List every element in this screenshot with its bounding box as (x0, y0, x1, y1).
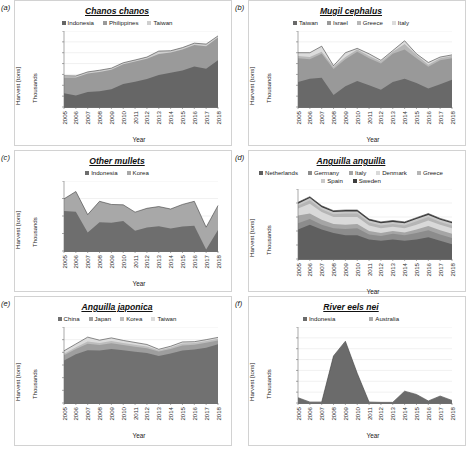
chart-legend: IndonesiaPhilippinesTaiwan (0, 19, 234, 26)
y-axis-title: Harvest [tons] (14, 363, 21, 401)
chart-panel-a: (a)Chanos chanosIndonesiaPhilippinesTaiw… (0, 0, 234, 150)
x-tick-label: 2012 (377, 262, 384, 276)
x-tick-label: 2013 (389, 406, 396, 420)
legend-swatch-icon (327, 21, 331, 25)
x-tick-label: 2017 (203, 110, 210, 124)
legend-item[interactable]: Italy (392, 19, 409, 26)
x-tick-label: 2011 (366, 406, 373, 420)
legend-label: Sweden (359, 177, 381, 184)
x-tick-label: 2015 (413, 262, 420, 276)
legend-label: Philippines (109, 19, 138, 26)
legend-item[interactable]: Taiwan (147, 19, 172, 26)
legend-item[interactable]: Germany (308, 169, 339, 176)
legend-item[interactable]: Philippines (103, 19, 138, 26)
x-tick-label: 2017 (437, 406, 444, 420)
x-tick-label: 2011 (366, 110, 373, 124)
x-tick-label: 2008 (330, 262, 337, 276)
legend-swatch-icon (103, 21, 107, 25)
legend-label: Netherlands (265, 169, 298, 176)
legend-item[interactable]: Australia (369, 315, 399, 322)
area-series-australia (298, 341, 452, 403)
x-axis-line (64, 107, 218, 108)
legend-label: Italy (398, 19, 409, 26)
legend-label: Greece (423, 169, 443, 176)
legend-label: Denmark (382, 169, 407, 176)
x-axis-line (298, 107, 452, 108)
y-axis-title: Harvest [tons] (14, 211, 21, 249)
legend-label: Australia (375, 315, 399, 322)
legend-item[interactable]: Japan (89, 315, 112, 322)
chart-legend: IndonesiaKorea (0, 169, 234, 176)
x-tick-label: 2013 (155, 254, 162, 268)
x-tick-label: 2015 (413, 110, 420, 124)
y-axis-scale-label: Thousands (266, 73, 272, 103)
x-tick-label: 2011 (132, 254, 139, 268)
legend-item[interactable]: Taiwan (151, 315, 176, 322)
chart-legend: IndonesiaAustralia (234, 315, 468, 322)
plot-area: 0123456720052006200720082009201020112012… (296, 31, 460, 137)
series-total-outline (298, 341, 452, 402)
legend-item[interactable]: Israel (327, 19, 348, 26)
x-tick-label: 2014 (401, 406, 408, 420)
x-tick-label: 2016 (191, 254, 198, 268)
panel-title: River eels nei (234, 302, 468, 312)
x-tick-label: 2008 (330, 110, 337, 124)
legend-item[interactable]: Indonesia (303, 315, 335, 322)
panel-title: Other mullets (0, 156, 234, 166)
x-tick-label: 2014 (401, 262, 408, 276)
x-tick-label: 2010 (120, 254, 127, 268)
x-tick-label: 2016 (191, 406, 198, 420)
x-tick-label: 2014 (401, 110, 408, 124)
legend-item[interactable]: Korea (120, 315, 142, 322)
legend-label: Italy (355, 169, 366, 176)
legend-swatch-icon (127, 171, 131, 175)
legend-item[interactable]: Indonesia (62, 19, 94, 26)
y-axis-scale-label: Thousands (32, 217, 38, 247)
legend-swatch-icon (357, 21, 361, 25)
x-tick-label: 2016 (425, 110, 432, 124)
x-tick-label: 2018 (449, 406, 456, 420)
legend-item[interactable]: Spain (321, 177, 343, 184)
chart-legend: NetherlandsGermanyItalyDenmarkGreeceSpai… (234, 169, 468, 184)
x-tick-label: 2005 (62, 110, 68, 124)
x-axis-title: Year (296, 288, 450, 295)
x-axis-line (64, 251, 218, 252)
x-tick-label: 2011 (132, 110, 139, 124)
legend-item[interactable]: China (58, 315, 80, 322)
legend-item[interactable]: Greece (357, 19, 383, 26)
legend-item[interactable]: Greece (417, 169, 443, 176)
legend-item[interactable]: Indonesia (85, 169, 117, 176)
legend-item[interactable]: Denmark (376, 169, 407, 176)
x-tick-label: 2005 (62, 406, 68, 420)
legend-swatch-icon (353, 179, 357, 183)
legend-item[interactable]: Netherlands (259, 169, 298, 176)
plot-area: 02004006008001,0001,2001,400200520062007… (62, 31, 226, 137)
x-tick-label: 2009 (108, 110, 115, 124)
chart-legend: TaiwanIsraelGreeceItaly (234, 19, 468, 26)
x-tick-label: 2016 (425, 262, 432, 276)
legend-label: Korea (133, 169, 149, 176)
legend-item[interactable]: Taiwan (293, 19, 318, 26)
chart-panel-d: (d)Anguilla anguillaNetherlandsGermanyIt… (234, 150, 468, 296)
y-axis-title: Harvest [tons] (248, 219, 255, 257)
legend-swatch-icon (392, 21, 396, 25)
legend-item[interactable]: Korea (127, 169, 149, 176)
legend-item[interactable]: Italy (349, 169, 366, 176)
legend-swatch-icon (89, 317, 93, 321)
x-axis-line (64, 403, 218, 404)
legend-label: Taiwan (153, 19, 172, 26)
x-tick-label: 2006 (72, 406, 79, 420)
legend-label: China (64, 315, 80, 322)
legend-item[interactable]: Sweden (353, 177, 381, 184)
x-tick-label: 2011 (132, 406, 139, 420)
x-tick-label: 2014 (167, 254, 174, 268)
chart-legend: ChinaJapanKoreaTaiwan (0, 315, 234, 322)
legend-label: Korea (126, 315, 142, 322)
x-tick-label: 2011 (366, 262, 373, 276)
x-tick-label: 2015 (179, 254, 186, 268)
x-tick-label: 2012 (377, 406, 384, 420)
x-axis-title: Year (296, 432, 450, 439)
plot-area: 0501001502002503002005200620072008200920… (62, 327, 226, 433)
x-tick-label: 2012 (377, 110, 384, 124)
x-axis-title: Year (62, 432, 216, 439)
